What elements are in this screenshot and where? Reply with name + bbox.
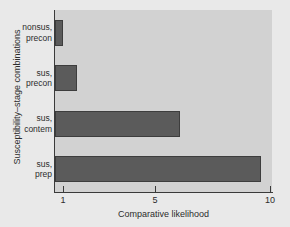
category-label-line: sus, <box>0 159 52 170</box>
category-label-line: sus, <box>0 113 52 124</box>
x-axis-tick-mark <box>63 186 64 193</box>
category-label: nonsus,precon <box>0 22 52 43</box>
bar <box>55 156 261 182</box>
bar <box>55 111 180 137</box>
bar-chart-figure: nonsus,preconsus,preconsus,contemsus,pre… <box>0 0 290 227</box>
x-axis-tick-mark <box>270 186 271 193</box>
bar <box>55 65 77 91</box>
category-label: sus,contem <box>0 113 52 134</box>
category-label-line: prep <box>0 169 52 180</box>
x-axis-tick-label: 10 <box>255 195 285 205</box>
x-axis-tick-mark <box>155 186 156 193</box>
category-label-line: precon <box>0 33 52 44</box>
category-label-line: precon <box>0 78 52 89</box>
y-axis-title: Susceptibility–stage combinations <box>12 0 22 197</box>
x-axis-title: Comparative likelihood <box>54 209 273 219</box>
category-label: sus,prep <box>0 159 52 180</box>
category-label-line: nonsus, <box>0 22 52 33</box>
category-label-line: contem <box>0 124 52 135</box>
category-label-line: sus, <box>0 68 52 79</box>
x-axis-line <box>54 192 273 193</box>
bar <box>55 20 63 46</box>
x-axis-tick-label: 1 <box>48 195 78 205</box>
x-axis-tick-label: 5 <box>140 195 170 205</box>
category-label: sus,precon <box>0 68 52 89</box>
